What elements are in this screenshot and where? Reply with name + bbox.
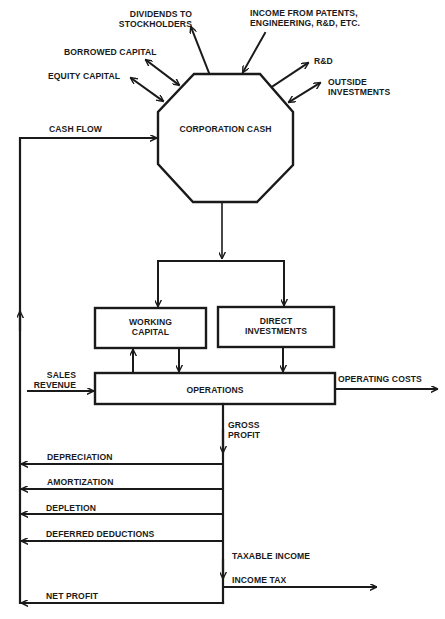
dividends-line-2: STOCKHOLDERS bbox=[108, 19, 192, 29]
income-patents-line-1: INCOME FROM PATENTS, bbox=[250, 8, 360, 18]
equity-capital-arrow bbox=[131, 78, 163, 101]
operating-costs-label: OPERATING COSTS bbox=[338, 374, 422, 384]
borrowed-capital-label: BORROWED CAPITAL bbox=[64, 47, 157, 57]
gross-profit-label: GROSS PROFIT bbox=[228, 420, 260, 440]
income-patents-line-2: ENGINEERING, R&D, ETC. bbox=[250, 18, 360, 28]
depletion-label: DEPLETION bbox=[46, 503, 96, 513]
equity-capital-label: EQUITY CAPITAL bbox=[48, 71, 120, 81]
rnd-arrow bbox=[273, 63, 308, 86]
net-profit-label: NET PROFIT bbox=[46, 591, 98, 601]
direct-investments-line-1: DIRECT bbox=[218, 316, 334, 326]
cash-flow-label: CASH FLOW bbox=[49, 124, 102, 134]
working-capital-line-2: CAPITAL bbox=[95, 327, 206, 337]
dividends-label: DIVIDENDS TO STOCKHOLDERS bbox=[108, 9, 192, 29]
deferred-deductions-label: DEFERRED DEDUCTIONS bbox=[46, 529, 154, 539]
depreciation-label: DEPRECIATION bbox=[47, 452, 113, 462]
corporation-cash-octagon bbox=[158, 74, 293, 202]
operations-label: OPERATIONS bbox=[95, 385, 335, 395]
working-capital-label: WORKING CAPITAL bbox=[95, 317, 206, 337]
income-patents-label: INCOME FROM PATENTS, ENGINEERING, R&D, E… bbox=[250, 8, 360, 28]
corporation-cash-label: CORPORATION CASH bbox=[160, 124, 291, 134]
outside-investments-line-2: INVESTMENTS bbox=[328, 87, 390, 97]
working-capital-line-1: WORKING bbox=[95, 317, 206, 327]
borrowed-capital-arrow bbox=[146, 60, 179, 85]
outside-investments-arrow bbox=[289, 83, 320, 102]
amortization-label: AMORTIZATION bbox=[47, 477, 113, 487]
direct-investments-line-2: INVESTMENTS bbox=[218, 326, 334, 336]
gross-profit-line-1: GROSS bbox=[228, 420, 260, 430]
sales-revenue-label: SALES REVENUE bbox=[20, 370, 76, 390]
sales-revenue-line-2: REVENUE bbox=[20, 380, 76, 390]
income-tax-label: INCOME TAX bbox=[232, 575, 286, 585]
cash-flow-diagram: DIVIDENDS TO STOCKHOLDERS INCOME FROM PA… bbox=[0, 0, 445, 619]
split-line bbox=[158, 261, 284, 307]
gross-profit-line-2: PROFIT bbox=[228, 430, 260, 440]
income-patents-arrow bbox=[243, 33, 265, 72]
dividends-arrow bbox=[191, 27, 209, 73]
taxable-income-label: TAXABLE INCOME bbox=[232, 551, 310, 561]
outside-investments-label: OUTSIDE INVESTMENTS bbox=[328, 77, 390, 97]
dividends-line-1: DIVIDENDS TO bbox=[108, 9, 192, 19]
outside-investments-line-1: OUTSIDE bbox=[328, 77, 390, 87]
sales-revenue-line-1: SALES bbox=[20, 370, 76, 380]
rnd-label: R&D bbox=[314, 56, 333, 66]
direct-investments-label: DIRECT INVESTMENTS bbox=[218, 316, 334, 336]
